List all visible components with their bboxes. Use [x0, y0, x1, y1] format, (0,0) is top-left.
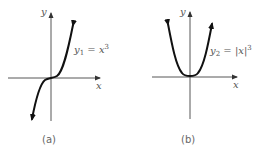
panel-b-equation: y2 = |x|3	[210, 45, 252, 58]
panel-b-axes	[152, 12, 237, 119]
panel-a-y-axis-label: y	[41, 7, 47, 17]
panel-a-equation: y1 = x3	[74, 44, 109, 57]
panel-b-x-axis-label: x	[233, 80, 239, 90]
panel-a-axes	[8, 13, 100, 121]
panel-a-x-axis-label: x	[96, 81, 102, 91]
figure: y x y1 = x3 (a) y x y2 = |x|3 (b)	[0, 0, 255, 154]
panel-a-cubic-curve	[32, 25, 73, 119]
panel-b-caption: (b)	[181, 135, 195, 145]
panel-a-caption: (a)	[42, 135, 56, 145]
graphs-canvas	[0, 0, 255, 154]
panel-b-y-axis-label: y	[180, 7, 186, 17]
